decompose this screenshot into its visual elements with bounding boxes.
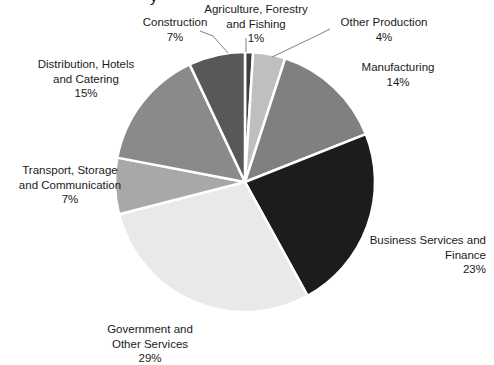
slice-label-other-production: Other Production 4%: [322, 15, 446, 44]
slice-label-manufacturing: Manufacturing 14%: [340, 60, 456, 89]
slice-label-distribution-line2: and Catering: [20, 72, 152, 87]
slice-label-transport-line1: Transport, Storage: [2, 163, 138, 178]
slice-label-distribution-percent: 15%: [20, 86, 152, 101]
slice-label-government-percent: 29%: [88, 351, 212, 365]
slice-label-business-services: Business Services and Finance 23%: [346, 233, 486, 277]
slice-label-other-production-percent: 4%: [322, 30, 446, 45]
slice-label-manufacturing-line1: Manufacturing: [340, 60, 456, 75]
slice-label-construction: Construction 7%: [122, 15, 228, 44]
slice-label-distribution: Distribution, Hotels and Catering 15%: [20, 57, 152, 101]
slice-label-government-line2: Other Services: [88, 337, 212, 352]
slice-label-manufacturing-percent: 14%: [340, 75, 456, 90]
slice-label-business-services-line2: Finance: [346, 248, 486, 263]
slice-label-transport-line2: and Communication: [2, 178, 138, 193]
slice-label-business-services-line1: Business Services and: [346, 233, 486, 248]
slice-label-government-line1: Government and: [88, 322, 212, 337]
pie-chart-figure: y Agriculture, Forestry and Fishing 1% C…: [0, 0, 494, 365]
slice-label-transport-percent: 7%: [2, 192, 138, 207]
slice-label-construction-line1: Construction: [122, 15, 228, 30]
slice-label-government: Government and Other Services 29%: [88, 322, 212, 365]
slice-label-other-production-line1: Other Production: [322, 15, 446, 30]
slice-label-construction-percent: 7%: [122, 30, 228, 45]
slice-label-distribution-line1: Distribution, Hotels: [20, 57, 152, 72]
slice-label-business-services-percent: 23%: [346, 262, 486, 277]
pie-slice-group: [115, 52, 375, 312]
slice-label-transport: Transport, Storage and Communication 7%: [2, 163, 138, 207]
